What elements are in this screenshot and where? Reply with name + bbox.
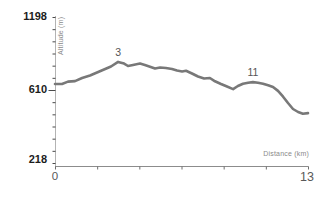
y-axis-label-min: 218: [7, 153, 47, 166]
y-axis-label-mid: 610: [7, 83, 47, 96]
profile-line: [55, 62, 308, 114]
x-axis-label-end: 13: [294, 171, 320, 183]
x-axis-title: Distance (km): [263, 150, 309, 157]
y-axis-label-max: 1198: [7, 10, 47, 23]
waypoint-label-km11: 11: [241, 66, 265, 78]
x-axis-label-start: 0: [45, 170, 65, 182]
y-axis-title: Altitude (m): [57, 17, 64, 55]
elevation-profile-chart: 1198 610 218 Altitude (m) Distance (km) …: [0, 0, 332, 200]
waypoint-label-km3: 3: [106, 46, 130, 58]
